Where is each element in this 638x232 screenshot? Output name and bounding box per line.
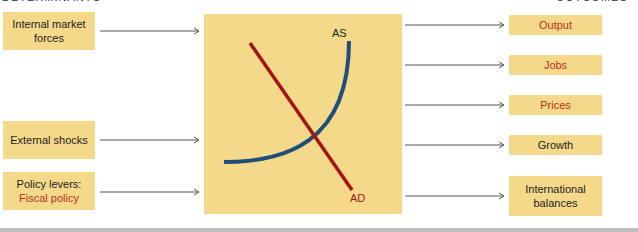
- arrow-external-to-panel: [100, 137, 199, 143]
- arrow-panel-to-prices: [405, 102, 504, 108]
- outcome-international-balances: International balances: [509, 176, 602, 216]
- outcome-prices: Prices: [509, 95, 602, 115]
- arrow-panel-to-growth: [405, 142, 504, 148]
- arrow-panel-to-jobs: [405, 62, 504, 68]
- outcome-output: Output: [509, 15, 602, 35]
- arrow-panel-to-international: [405, 193, 504, 199]
- outcome-jobs: Jobs: [509, 55, 602, 75]
- arrow-panel-to-output: [405, 22, 504, 28]
- arrow-policy-to-panel: [100, 189, 199, 195]
- arrow-internal-to-panel: [100, 28, 199, 34]
- outcome-growth: Growth: [509, 135, 602, 155]
- bottom-divider: [0, 228, 638, 232]
